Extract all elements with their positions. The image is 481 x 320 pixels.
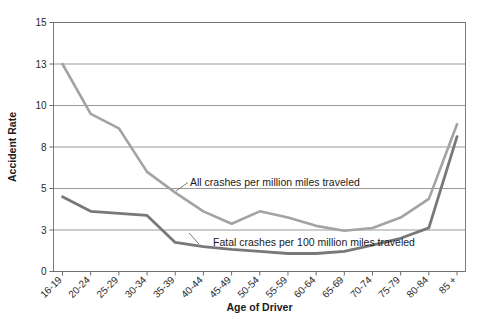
y-tick-label-13: 13 [35,59,47,70]
y-axis-title: Accident Rate [6,112,18,182]
accident-rate-line-chart: 151310853016-1920-2425-2930-3435-3940-44… [0,0,481,320]
x-tick-label-12: 75-79 [376,274,402,300]
annotation-fatal-crashes: Fatal crashes per 100 million miles trav… [213,236,415,248]
y-tick-label-15: 15 [35,17,47,28]
chart-canvas: 151310853016-1920-2425-2930-3435-3940-44… [0,0,481,320]
y-tick-label-3: 3 [41,225,47,236]
x-tick-label-9: 60-64 [292,274,318,300]
x-axis-title: Age of Driver [227,301,293,313]
x-tick-label-4: 35-39 [151,274,177,300]
y-tick-label-10: 10 [35,100,47,111]
x-tick-label-11: 70-74 [348,274,374,300]
x-tick-label-3: 30-34 [123,274,149,300]
x-tick-label-2: 25-29 [94,274,120,300]
y-tick-label-0: 0 [41,266,47,277]
x-tick-label-6: 45-49 [207,274,233,300]
x-tick-label-8: 55-59 [263,274,289,300]
y-tick-label-8: 8 [41,142,47,153]
x-tick-label-1: 20-24 [66,274,92,300]
x-tick-label-5: 40-44 [179,274,205,300]
annotation-leader-fatal-crashes [189,233,199,244]
x-tick-label-7: 50-54 [235,274,261,300]
x-tick-label-13: 80-84 [404,274,430,300]
x-tick-label-14: 85 + [437,274,459,296]
x-tick-label-10: 65-69 [320,274,346,300]
annotation-all-crashes: All crashes per million miles traveled [190,176,360,188]
y-tick-label-5: 5 [41,183,47,194]
x-tick-label-0: 16-19 [38,274,64,300]
annotation-leader-all-crashes [176,183,188,192]
